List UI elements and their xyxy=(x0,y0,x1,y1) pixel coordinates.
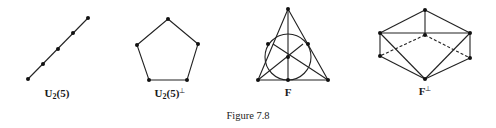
figure-canvas xyxy=(0,0,496,128)
label-u25: U2(5) xyxy=(45,87,70,101)
label-u25-dual: U2(5)⊥ xyxy=(155,87,186,101)
label-fano: F xyxy=(285,86,292,98)
label-fano-dual: F⊥ xyxy=(419,85,432,97)
pentagon-diagram xyxy=(137,19,198,80)
figure-caption: Figure 7.8 xyxy=(226,110,269,121)
fano-dual-diagram xyxy=(380,10,470,79)
